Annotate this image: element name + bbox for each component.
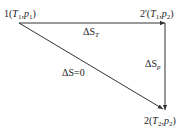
state-1-label: 1(T1,p1) xyxy=(4,8,36,19)
state-2prime-label: 2'(T1,p2) xyxy=(140,8,174,19)
delta-s-zero-label: ΔS=0 xyxy=(62,67,85,78)
state-2-label: 2(T2,p2) xyxy=(144,115,176,126)
delta-s-p-label: ΔSp xyxy=(145,58,161,69)
delta-s-t-label: ΔST xyxy=(83,26,99,37)
